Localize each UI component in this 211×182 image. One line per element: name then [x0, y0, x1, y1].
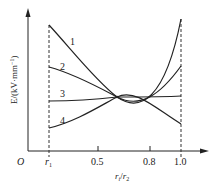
tick-05-label: 0.5 [91, 156, 104, 167]
curve-1 [49, 19, 181, 103]
crossing-point [116, 96, 119, 99]
curves [49, 19, 181, 128]
r1-sub: 1 [49, 162, 52, 168]
x-ticks [98, 146, 150, 151]
curve-4 [49, 95, 181, 128]
y-axis-arrow-icon [26, 8, 31, 17]
axes [28, 14, 203, 151]
tick-10-label: 1.0 [174, 156, 187, 167]
curve-4-label: 4 [60, 115, 65, 126]
y-axis-title: E/(kV·mm−1) [9, 56, 19, 104]
x-axis-title: ri/r2 [115, 171, 129, 182]
curve-3-label: 3 [60, 88, 65, 99]
curve-2 [49, 66, 181, 101]
tick-08-label: 0.8 [143, 156, 156, 167]
chart: 1 2 3 4 O r1 0.5 0.8 1.0 ri/r2 E/(kV·mm−… [0, 0, 211, 182]
origin-label: O [17, 156, 24, 167]
curve-2-label: 2 [60, 61, 65, 72]
x-axis-arrow-icon [200, 149, 209, 154]
curve-1-label: 1 [70, 36, 75, 47]
r1-label: r1 [45, 156, 52, 168]
